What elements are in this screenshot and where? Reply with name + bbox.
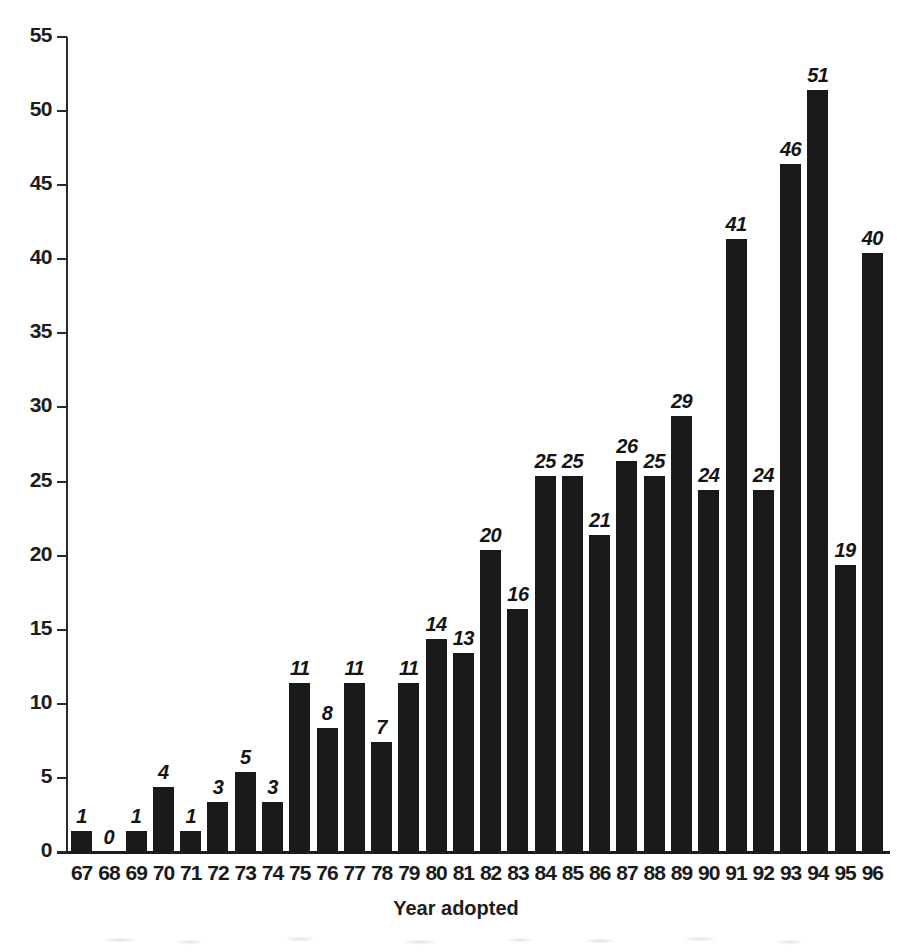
y-axis-line [66,37,68,853]
y-axis-tick [57,703,67,705]
bar-value-label: 1 [116,805,156,828]
bar-value-label: 20 [471,524,511,547]
bar [371,742,392,852]
bar-value-label: 4 [143,761,183,784]
bar-value-label: 24 [743,464,783,487]
bar [644,476,665,852]
plot-area: 0510152025303540455055 10141353118117111… [0,0,912,952]
bar [262,802,283,852]
y-axis-tick [57,36,67,38]
bar [835,565,856,852]
y-axis-tick-label: 15 [6,616,52,640]
y-axis-tick [57,777,67,779]
bar-value-label: 3 [253,776,293,799]
y-axis-tick-label: 30 [6,393,52,417]
bar [562,476,583,852]
y-axis-tick [57,629,67,631]
bar-value-label: 51 [798,64,838,87]
y-axis-tick-label: 50 [6,97,52,121]
bar-value-label: 25 [634,450,674,473]
bar-value-label: 7 [362,716,402,739]
y-axis-tick-label: 10 [6,690,52,714]
bar [507,609,528,852]
y-axis-tick-label: 35 [6,319,52,343]
bar [589,535,610,852]
bar-value-label: 25 [552,450,592,473]
bar [398,683,419,852]
bar [180,831,201,852]
bar-value-label: 1 [171,805,211,828]
bar [726,239,747,852]
y-axis-tick [57,481,67,483]
y-axis-tick-label: 5 [6,764,52,788]
y-axis-tick [57,555,67,557]
bar-value-label: 8 [307,702,347,725]
bar-value-label: 46 [771,138,811,161]
bar-value-label: 40 [852,227,892,250]
bar-value-label: 3 [198,776,238,799]
bar-value-label: 13 [443,627,483,650]
y-axis-tick [57,406,67,408]
y-axis-tick [57,258,67,260]
scan-artifact [0,930,912,952]
bar-value-label: 5 [225,746,265,769]
bar [317,728,338,852]
y-axis-tick-label: 0 [6,838,52,862]
bar-value-label: 19 [825,539,865,562]
y-axis-tick-label: 40 [6,245,52,269]
bar [698,490,719,852]
y-axis-tick [57,184,67,186]
y-axis-tick [57,851,67,853]
y-axis-tick [57,332,67,334]
y-axis-tick-label: 25 [6,468,52,492]
bar-value-label: 1 [62,805,102,828]
bar [535,476,556,852]
bar-value-label: 11 [389,657,429,680]
bar-value-label: 11 [280,657,320,680]
bar-chart-figure: 0510152025303540455055 10141353118117111… [0,0,912,952]
x-axis-tick-label: 96 [852,861,892,885]
bar-value-label: 0 [89,826,129,849]
bar-value-label: 41 [716,213,756,236]
y-axis-tick [57,110,67,112]
y-axis-tick-label: 20 [6,542,52,566]
y-axis-tick-label: 55 [6,23,52,47]
bar [453,653,474,852]
bar [753,490,774,852]
bar [807,90,828,852]
bar-value-label: 11 [334,657,374,680]
bar-value-label: 29 [662,390,702,413]
bar-value-label: 16 [498,583,538,606]
bar-value-label: 24 [689,464,729,487]
x-axis-title: Year adopted [0,897,912,920]
y-axis-tick-label: 45 [6,171,52,195]
bar-value-label: 21 [580,509,620,532]
bar [780,164,801,852]
